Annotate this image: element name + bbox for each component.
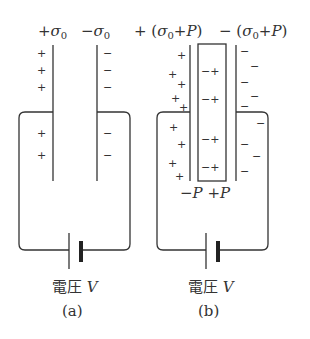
svg-text:+: + [179, 101, 188, 114]
svg-text:−+: −+ [201, 93, 219, 106]
svg-text:+: + [168, 68, 177, 81]
svg-text:−: − [103, 149, 112, 162]
svg-text:+: + [169, 121, 178, 134]
dielectric-bound-charges: −+ −+ −+ −+ [201, 65, 219, 174]
dielectric-surface-label: −P +P [180, 184, 231, 202]
plate-a-left-charges: + + + + + [37, 47, 46, 162]
svg-text:−+: −+ [201, 65, 219, 78]
voltage-label-a: 電圧 V [52, 278, 100, 296]
svg-text:+: + [175, 170, 184, 183]
svg-text:−: − [256, 117, 265, 130]
svg-text:−: − [240, 45, 249, 58]
svg-text:+: + [37, 64, 46, 77]
svg-text:−: − [240, 138, 249, 151]
label-plus-sigma: +σ0 [38, 22, 67, 41]
label-minus-sigma-p: − (σ0+P) [219, 22, 287, 41]
svg-text:−: − [240, 100, 249, 113]
label-minus-sigma: −σ0 [81, 22, 110, 41]
figure-a-circuit [19, 45, 130, 269]
svg-text:−: − [250, 90, 259, 103]
plate-a-right-charges: − − − − − [103, 47, 112, 162]
svg-text:−: − [103, 127, 112, 140]
svg-text:+: + [168, 157, 177, 170]
svg-text:+: + [177, 138, 186, 151]
voltage-label-b: 電圧 V [188, 278, 236, 296]
caption-b: (b) [198, 302, 219, 320]
svg-text:−: − [103, 64, 112, 77]
svg-text:+: + [37, 47, 46, 60]
svg-text:−: − [250, 60, 259, 73]
svg-text:−: − [252, 150, 261, 163]
battery-a-negative [79, 241, 83, 262]
svg-text:−: − [240, 76, 249, 89]
svg-text:−: − [103, 81, 112, 94]
svg-text:−+: −+ [201, 133, 219, 146]
svg-text:+: + [177, 49, 186, 62]
caption-a: (a) [62, 302, 83, 320]
battery-b-negative [216, 241, 220, 262]
label-plus-sigma-p: + (σ0+P) [134, 22, 202, 41]
svg-text:+: + [37, 149, 46, 162]
svg-text:−+: −+ [201, 161, 219, 174]
svg-text:+: + [37, 127, 46, 140]
svg-text:−: − [103, 47, 112, 60]
svg-text:+: + [37, 81, 46, 94]
svg-text:+: + [177, 78, 186, 91]
plate-b-left-charges: + + + + + + + + + [168, 49, 188, 183]
svg-text:−: − [240, 165, 249, 178]
capacitor-diagram: +σ0 −σ0 + + + + + − − − − − 電圧 V (a) + (… [0, 0, 310, 339]
